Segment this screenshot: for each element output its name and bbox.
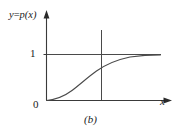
- figure-container: y=p(x) x 1 0 (b): [0, 0, 181, 131]
- figure-caption: (b): [0, 113, 181, 125]
- y-tick-label-one: 1: [30, 48, 36, 59]
- x-axis-label: x: [160, 96, 165, 107]
- y-axis-arrowhead-icon: [44, 10, 50, 19]
- y-axis-label: y=p(x): [9, 10, 37, 21]
- y-axis-label-function: p(x): [20, 9, 37, 20]
- curve-p-of-x: [47, 55, 161, 101]
- origin-label-zero: 0: [33, 99, 39, 110]
